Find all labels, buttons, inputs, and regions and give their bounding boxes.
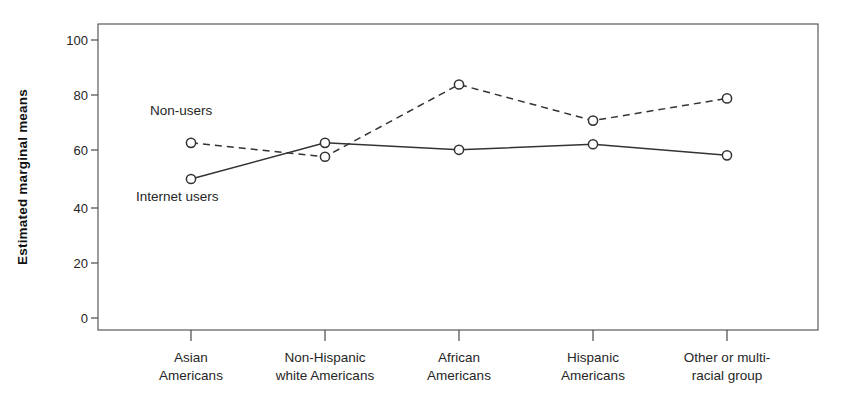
x-category-label-1-line2: white Americans — [275, 368, 375, 383]
x-category-label-4-line1: Other or multi- — [684, 350, 770, 365]
chart-figure: Estimated marginal means 100 80 60 40 20… — [0, 0, 845, 401]
series-annotation-internet-users: Internet users — [136, 189, 219, 204]
x-category-label-1-line1: Non-Hispanic — [284, 350, 365, 365]
x-category-labels: Asian Americans Non-Hispanic white Ameri… — [159, 350, 770, 383]
x-category-label-4-line2: racial group — [692, 368, 763, 383]
y-axis-title: Estimated marginal means — [15, 89, 30, 265]
data-point-marker — [186, 138, 195, 147]
x-category-label-2-line1: African — [438, 350, 480, 365]
y-tick-label-40: 40 — [74, 201, 88, 216]
data-point-marker — [722, 94, 731, 103]
y-tick-label-60: 60 — [74, 143, 88, 158]
series-annotation-non-users: Non-users — [150, 103, 213, 118]
y-tick-marks — [91, 40, 98, 318]
y-tick-labels: 100 80 60 40 20 0 — [66, 33, 88, 326]
x-category-label-0-line1: Asian — [174, 350, 208, 365]
y-tick-label-20: 20 — [74, 256, 88, 271]
data-point-marker — [454, 145, 463, 154]
y-tick-label-80: 80 — [74, 88, 88, 103]
x-tick-marks — [191, 330, 727, 341]
data-point-marker — [320, 138, 329, 147]
line-chart-svg: Estimated marginal means 100 80 60 40 20… — [0, 0, 845, 401]
y-tick-label-0: 0 — [81, 311, 88, 326]
x-category-label-3-line1: Hispanic — [567, 350, 619, 365]
x-category-label-2-line2: Americans — [427, 368, 491, 383]
data-series-layer — [186, 80, 731, 184]
x-category-label-0-line2: Americans — [159, 368, 223, 383]
data-point-marker — [722, 151, 731, 160]
data-point-marker — [320, 152, 329, 161]
data-point-marker — [454, 80, 463, 89]
plot-frame — [98, 24, 818, 330]
data-point-marker — [186, 174, 195, 183]
x-category-label-3-line2: Americans — [561, 368, 625, 383]
y-tick-label-100: 100 — [66, 33, 88, 48]
data-point-marker — [588, 140, 597, 149]
data-point-marker — [588, 116, 597, 125]
